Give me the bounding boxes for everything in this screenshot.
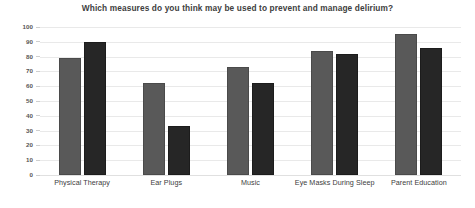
y-axis-tick: 40	[0, 111, 40, 121]
y-axis-tick-label: 40	[26, 111, 33, 121]
x-axis-label: Ear Plugs	[119, 178, 213, 188]
y-axis-tick: 70	[0, 66, 40, 76]
y-axis-tick-label: 70	[26, 66, 33, 76]
chart-title: Which measures do you think may be used …	[0, 3, 475, 14]
bar	[168, 126, 190, 175]
bar	[84, 42, 106, 175]
plot-area	[40, 27, 461, 175]
y-axis-tick-label: 100	[22, 22, 33, 32]
bar-chart-figure: Which measures do you think may be used …	[0, 0, 475, 208]
bar	[336, 54, 358, 175]
y-axis-tick: 20	[0, 140, 40, 150]
x-axis-label: Physical Therapy	[35, 178, 129, 188]
y-axis-tick: 30	[0, 126, 40, 136]
bar	[395, 34, 417, 175]
y-axis-tick-label: 50	[26, 96, 33, 106]
y-axis-tick: 10	[0, 155, 40, 165]
bar	[311, 51, 333, 175]
y-axis-tick-label: 20	[26, 140, 33, 150]
y-axis-tick: 100	[0, 22, 40, 32]
x-axis: Physical TherapyEar PlugsMusicEye Masks …	[40, 178, 461, 208]
y-axis-tick: 80	[0, 52, 40, 62]
bar	[143, 83, 165, 175]
y-axis-tick-label: 80	[26, 52, 33, 62]
y-axis-tick-label: 90	[26, 37, 33, 47]
x-axis-label: Parent Education	[372, 178, 466, 188]
y-axis-tick-label: 60	[26, 81, 33, 91]
y-axis-tick: 0	[0, 170, 40, 180]
bar	[59, 58, 81, 175]
y-axis-tick: 50	[0, 96, 40, 106]
x-axis-label: Music	[203, 178, 297, 188]
y-axis-tick-label: 30	[26, 126, 33, 136]
gridline	[40, 175, 461, 176]
y-axis-tick-label: 0	[29, 170, 33, 180]
bar	[252, 83, 274, 175]
y-axis-tick-label: 10	[26, 155, 33, 165]
y-axis-tick: 60	[0, 81, 40, 91]
y-axis: 1009080706050403020100	[0, 27, 40, 175]
bars-layer	[40, 27, 461, 175]
bar	[227, 67, 249, 175]
y-axis-tick: 90	[0, 37, 40, 47]
bar	[420, 48, 442, 175]
x-axis-label: Eye Masks During Sleep	[288, 178, 382, 188]
